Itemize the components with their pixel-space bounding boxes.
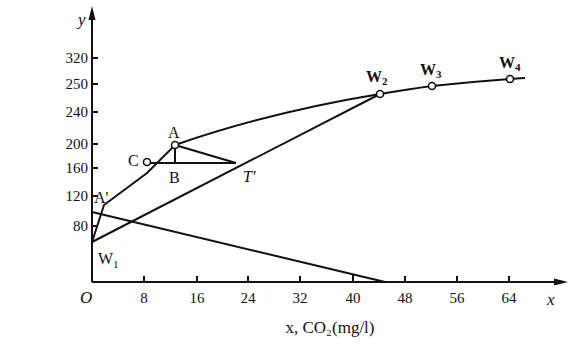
point-w2-label: W2 (366, 68, 388, 87)
y-tick-label: 80 (73, 218, 88, 234)
point-c-label: C (128, 152, 139, 169)
x-tick-label: 48 (398, 290, 413, 306)
point-c-marker (144, 159, 151, 166)
x-tick-label: 56 (450, 290, 466, 306)
x-tick-label: 8 (140, 290, 148, 306)
point-w4-marker (507, 76, 514, 83)
point-w4-label: W4 (499, 54, 521, 73)
x-tick-labels: 8 16 24 32 40 48 56 64 (140, 290, 517, 306)
y-tick-label: 200 (66, 136, 89, 152)
y-axis-variable: y (76, 10, 86, 29)
y-tick-label: 160 (66, 160, 89, 176)
x-tick-label: 16 (190, 290, 206, 306)
x-tick-label: 40 (346, 290, 361, 306)
point-w3-marker (429, 83, 436, 90)
point-w1-label: W1 (98, 250, 119, 270)
y-tick-label: 250 (66, 76, 89, 92)
point-a-label: A (168, 124, 180, 141)
line-a-t (175, 145, 236, 163)
x-axis-title: x, CO₂(mg/l) (285, 318, 374, 337)
x-tick-label: 24 (241, 290, 257, 306)
x-axis-variable: x (546, 290, 555, 309)
point-w3-label: W3 (420, 61, 442, 80)
descending-line (92, 212, 385, 282)
point-t-prime-label: T' (243, 168, 256, 185)
equilibrium-curve (92, 78, 525, 242)
origin-label: O (80, 288, 92, 307)
y-tick-label: 120 (66, 188, 89, 204)
x-axis-arrow-icon (554, 279, 568, 286)
point-w2-marker (377, 91, 384, 98)
y-tick-label: 240 (66, 104, 89, 120)
point-a-prime-label: A' (94, 189, 109, 206)
co2-caco3-diagram: 320 250 240 200 160 120 80 8 16 24 32 40… (0, 0, 580, 352)
y-tick-labels: 320 250 240 200 160 120 80 (66, 50, 89, 234)
x-ticks (144, 274, 509, 282)
x-tick-label: 32 (293, 290, 308, 306)
point-a-marker (172, 142, 179, 149)
point-b-label: B (169, 169, 180, 186)
y-tick-label: 320 (66, 50, 89, 66)
x-tick-label: 64 (502, 290, 518, 306)
y-axis-arrow-icon (89, 6, 96, 20)
